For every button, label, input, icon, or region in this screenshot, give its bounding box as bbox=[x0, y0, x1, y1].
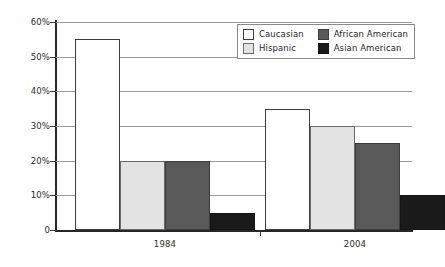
legend-label: Asian American bbox=[334, 44, 402, 53]
bar-asian-1984 bbox=[210, 213, 255, 230]
legend-item-asian[interactable]: Asian American bbox=[318, 43, 408, 54]
bar-hispanic-2004 bbox=[310, 126, 355, 230]
bar-african-2004 bbox=[355, 143, 400, 230]
y-tick-label: 60% bbox=[6, 18, 50, 27]
bar-hispanic-1984 bbox=[120, 161, 165, 230]
y-tick-mark bbox=[50, 230, 56, 231]
y-tick-label: 40% bbox=[6, 87, 50, 96]
y-tick-label: 10% bbox=[6, 191, 50, 200]
x-tick-label-2004: 2004 bbox=[325, 240, 385, 249]
legend-item-caucasian[interactable]: Caucasian bbox=[243, 29, 304, 40]
bar-african-1984 bbox=[165, 161, 210, 230]
x-axis-line bbox=[55, 230, 413, 232]
y-tick-label: 0 bbox=[6, 226, 50, 235]
y-tick-label: 20% bbox=[6, 157, 50, 166]
bar-caucasian-1984 bbox=[75, 39, 120, 230]
bar-caucasian-2004 bbox=[265, 109, 310, 230]
legend-label: Caucasian bbox=[259, 30, 304, 39]
legend-swatch-african-icon bbox=[318, 29, 329, 40]
legend-swatch-hispanic-icon bbox=[243, 43, 254, 54]
legend-item-african[interactable]: African American bbox=[318, 29, 408, 40]
bar-asian-2004 bbox=[400, 195, 445, 230]
legend-item-hispanic[interactable]: Hispanic bbox=[243, 43, 304, 54]
y-tick-label: 30% bbox=[6, 122, 50, 131]
chart-legend: CaucasianAfrican AmericanHispanicAsian A… bbox=[237, 24, 415, 59]
legend-swatch-asian-icon bbox=[318, 43, 329, 54]
legend-label: Hispanic bbox=[259, 44, 296, 53]
x-tick-label-1984: 1984 bbox=[135, 240, 195, 249]
legend-swatch-caucasian-icon bbox=[243, 29, 254, 40]
y-tick-label: 50% bbox=[6, 53, 50, 62]
legend-label: African American bbox=[334, 30, 408, 39]
x-tick-mark-divider bbox=[260, 231, 261, 236]
